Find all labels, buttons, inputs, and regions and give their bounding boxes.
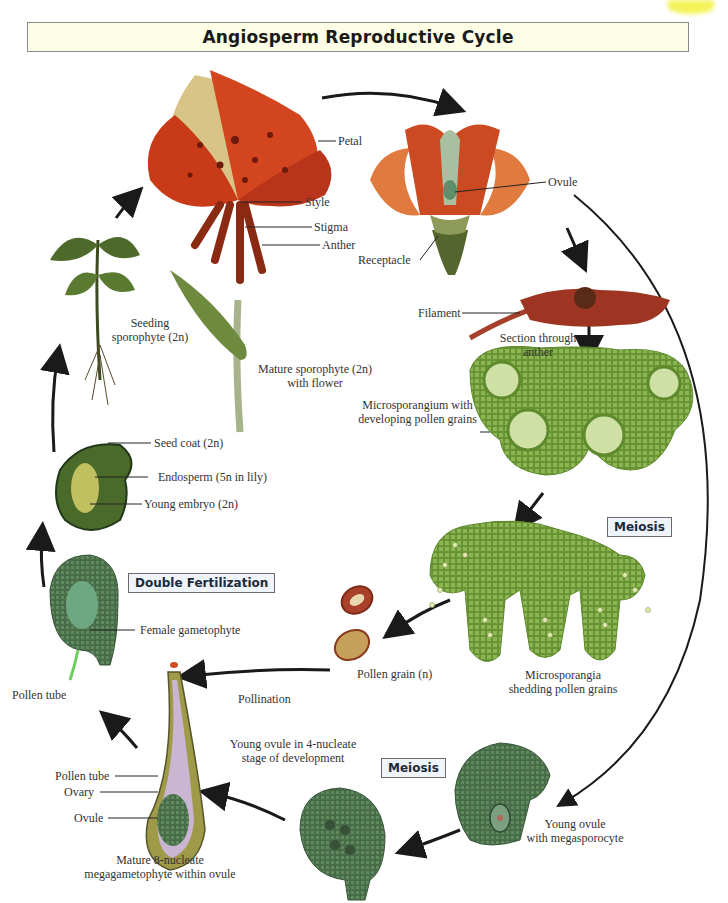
cycle-arrows (41, 93, 707, 850)
label-pollen-tube-left: Pollen tube (12, 688, 66, 702)
arrow-to-shedding (520, 493, 543, 523)
meiosis-box-lower: Meiosis (381, 758, 446, 778)
label-receptacle: Receptacle (358, 253, 411, 267)
label-ovary: Ovary (64, 785, 94, 799)
arrow-to-4-nucleate (406, 830, 460, 850)
label-female-gametophyte: Female gametophyte (140, 623, 240, 637)
label-petal: Petal (338, 134, 362, 148)
arrow-flower-to-section (322, 93, 455, 108)
label-style: Style (305, 195, 330, 209)
label-section-anther: Section through anther (488, 331, 588, 359)
label-microsporangium: Microsporangium with developing pollen g… (350, 398, 485, 426)
double-fertilization-ovule-illustration (50, 555, 118, 680)
label-young-ovule-4-nucleate: Young ovule in 4-nucleate stage of devel… (218, 737, 368, 765)
microsporangium-illustration (470, 346, 693, 475)
meiosis-box-upper: Meiosis (607, 517, 672, 537)
arrow-to-double-fert (108, 718, 137, 748)
label-filament: Filament (418, 306, 461, 320)
label-seed-coat: Seed coat (2n) (154, 436, 223, 450)
label-pollination: Pollination (238, 692, 291, 706)
four-nucleate-ovule-illustration (300, 788, 385, 900)
arrow-pollination (188, 670, 330, 676)
label-seedling: Seeding sporophyte (2n) (100, 316, 200, 344)
label-young-ovule-megasporocyte: Young ovule with megasporocyte (515, 817, 635, 845)
ovary-illustration (146, 662, 205, 870)
pollen-grains-illustration (329, 581, 377, 666)
cycle-illustration (0, 0, 728, 903)
arrow-to-seedling (53, 355, 58, 452)
arrow-to-seed (41, 533, 44, 587)
label-pollen-tube-ovary: Pollen tube (55, 769, 109, 783)
microsporangia-shedding-illustration (430, 521, 651, 661)
label-anther: Anther (322, 238, 355, 252)
arrow-to-mature (116, 195, 135, 218)
arrow-to-pollen (392, 600, 450, 632)
label-microsporangia-shedding: Microsporangia shedding pollen grains (498, 668, 628, 696)
label-endosperm: Endosperm (5n in lily) (158, 470, 267, 484)
arrow-to-anther (567, 228, 582, 262)
double-fertilization-box: Double Fertilization (128, 573, 275, 593)
arrow-to-8-nucleate (210, 793, 285, 820)
label-mature-8-nucleate: Mature 8-nucleate megagametophyte within… (70, 853, 250, 881)
arrow-to-young-ovule (563, 195, 708, 803)
label-young-embryo: Young embryo (2n) (144, 497, 238, 511)
label-mature-sporophyte: Mature sporophyte (2n) with flower (250, 362, 380, 390)
label-pollen-grain: Pollen grain (n) (357, 667, 432, 681)
seed-illustration (56, 444, 131, 530)
label-ovule-flower: Ovule (548, 175, 577, 189)
label-stigma: Stigma (314, 220, 348, 234)
label-ovule-ovary: Ovule (74, 811, 103, 825)
